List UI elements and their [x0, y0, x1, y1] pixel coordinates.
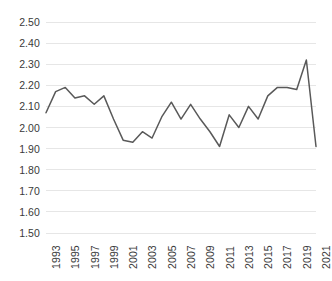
x-axis-tick-label: 2019: [301, 245, 313, 269]
x-axis-tick-label: 2003: [146, 245, 158, 269]
x-axis-tick-label: 2013: [243, 245, 255, 269]
x-axis-tick-label: 2009: [204, 245, 216, 269]
x-axis-tick-label: 2001: [127, 245, 139, 269]
x-axis-tick-label: 2007: [185, 245, 197, 269]
x-axis-tick-label: 1999: [108, 245, 120, 269]
x-axis-tick-label: 2021: [320, 245, 332, 269]
x-axis-tick-label: 1995: [69, 245, 81, 269]
x-axis-tick-label: 2015: [262, 245, 274, 269]
x-axis-tick-label: 2017: [281, 245, 293, 269]
x-axis-tick-label: 1993: [50, 245, 62, 269]
x-axis-tick-label: 2005: [166, 245, 178, 269]
x-axis-tick-label: 1997: [89, 245, 101, 269]
x-axis-tick-label: 2011: [224, 246, 236, 269]
